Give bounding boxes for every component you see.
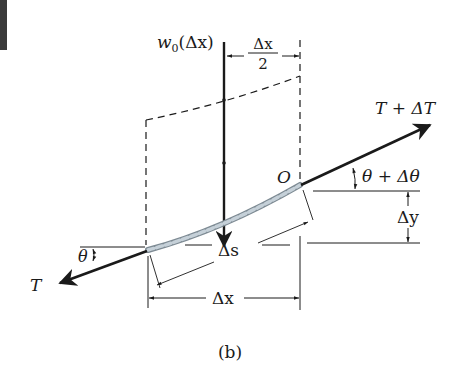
angle-left-label: θ [78, 247, 88, 266]
angle-left-arc [93, 249, 94, 261]
tension-left-label: T [30, 275, 43, 295]
load-resultant-arrow [222, 42, 226, 246]
delta-y-label: Δy [397, 207, 419, 227]
point-o-label: O [277, 167, 291, 187]
tension-right-label: T + ΔT [375, 98, 437, 118]
angle-right-label: θ + Δθ [362, 166, 420, 186]
corner-bar [0, 0, 7, 50]
cable-element-free-body-diagram: w0(Δx) Δx 2 T + ΔT O θ + Δθ Δy Δs Δx θ T… [0, 0, 470, 379]
load-label: w0(Δx) [157, 32, 214, 55]
tension-left-arrow [60, 251, 147, 283]
delta-s-label: Δs [218, 240, 239, 260]
angle-right-arc [353, 168, 355, 189]
half-dx-denominator: 2 [258, 55, 268, 73]
figure-caption: (b) [218, 342, 242, 362]
half-dx-numerator: Δx [253, 35, 273, 53]
delta-x-label: Δx [212, 288, 234, 308]
